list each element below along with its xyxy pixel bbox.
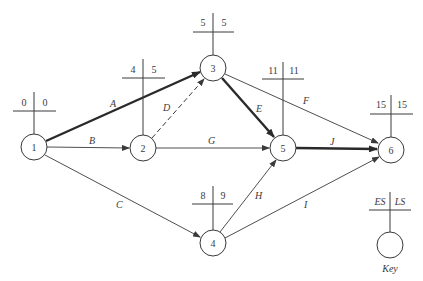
node-4-es: 8	[201, 190, 206, 201]
edge-d	[152, 79, 204, 138]
edge-c	[45, 155, 200, 237]
key-legend: ES LS Key	[369, 192, 411, 274]
node-4-ls: 9	[221, 190, 226, 201]
edge-h	[220, 160, 276, 232]
node-6: 15 15 6	[370, 95, 413, 163]
edge-label-b: B	[89, 135, 95, 146]
node-1-es: 0	[22, 97, 27, 108]
key-ls-label: LS	[394, 196, 406, 207]
node-6-es: 15	[376, 99, 386, 110]
edge-i	[225, 157, 379, 238]
node-3: 5 5 3	[193, 13, 234, 81]
node-1-label: 1	[32, 142, 37, 153]
node-5-es: 11	[268, 65, 278, 76]
node-3-es: 5	[201, 17, 206, 28]
edge-label-a: A	[109, 98, 117, 109]
edge-e	[222, 78, 274, 137]
node-3-label: 3	[211, 63, 216, 74]
node-5: 11 11 5	[262, 62, 304, 161]
node-1: 0 0 1	[13, 92, 56, 160]
key-es-label: ES	[373, 196, 385, 207]
edge-label-d: D	[162, 102, 171, 113]
edge-label-j: J	[330, 136, 335, 147]
node-1-ls: 0	[43, 97, 48, 108]
edge-label-h: H	[254, 190, 263, 201]
node-5-label: 5	[281, 143, 286, 154]
edge-label-f: F	[302, 95, 310, 106]
node-2-label: 2	[141, 143, 146, 154]
node-5-ls: 11	[289, 65, 299, 76]
edge-j	[296, 148, 377, 149]
edge-label-c: C	[116, 199, 123, 210]
edge-a	[46, 72, 200, 141]
key-caption: Key	[381, 263, 398, 274]
node-4: 8 9 4	[192, 186, 233, 256]
node-6-label: 6	[389, 145, 394, 156]
node-2-ls: 5	[152, 64, 157, 75]
node-2: 4 5 2	[122, 59, 165, 161]
edge-label-i: I	[303, 199, 308, 210]
node-4-label: 4	[211, 238, 216, 249]
edge-label-g: G	[208, 135, 215, 146]
node-3-ls: 5	[222, 17, 227, 28]
network-diagram: A B C D E F G H I J 0 0 1 4 5 2 5 5 3 8 …	[0, 0, 423, 281]
node-6-ls: 15	[397, 99, 407, 110]
edge-label-e: E	[255, 103, 262, 114]
node-2-es: 4	[131, 64, 136, 75]
edge-b	[47, 147, 129, 148]
